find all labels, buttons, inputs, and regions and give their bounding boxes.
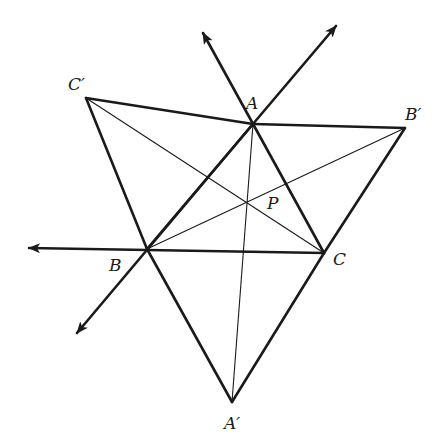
segment-c-cprime bbox=[86, 98, 324, 253]
segment-a-aprime bbox=[232, 124, 253, 402]
ray-ca-extended bbox=[203, 33, 324, 253]
label-c-prime: C′ bbox=[68, 74, 85, 94]
label-a-prime: A′ bbox=[222, 413, 240, 433]
ray-cb-extended bbox=[29, 248, 324, 253]
label-a: A bbox=[244, 93, 258, 113]
label-b: B bbox=[108, 255, 122, 275]
label-b-prime: B′ bbox=[404, 104, 421, 124]
segment-b-aprime bbox=[147, 249, 232, 402]
segment-a-bprime bbox=[253, 124, 405, 128]
label-c: C bbox=[333, 249, 346, 269]
ray-ab-extended bbox=[77, 124, 253, 333]
segment-aprime-c bbox=[232, 253, 324, 402]
label-p: P bbox=[266, 193, 279, 213]
segment-cprime-b bbox=[86, 98, 147, 249]
segment-cprime-a bbox=[86, 98, 253, 124]
geometry-diagram: A B C A′ B′ C′ P bbox=[0, 0, 446, 447]
